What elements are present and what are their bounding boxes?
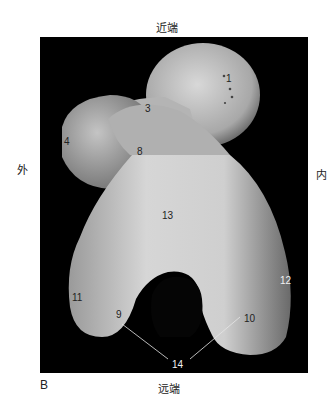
orientation-distal-label: 远端	[158, 380, 180, 396]
label-4: 4	[64, 136, 70, 147]
panel-letter: B	[40, 378, 48, 392]
label-13: 13	[162, 210, 173, 221]
bone-photograph: 1 3 4 8 13 12 11 9 10 14	[40, 37, 308, 373]
label-11: 11	[72, 292, 82, 303]
orientation-proximal-label: 近端	[156, 19, 178, 35]
label-8: 8	[137, 146, 143, 157]
label-12: 12	[280, 275, 291, 286]
orientation-medial-label: 内	[316, 166, 327, 182]
femur-distal-view-illustration	[40, 37, 308, 373]
orientation-lateral-label: 外	[17, 161, 28, 177]
label-9: 9	[116, 309, 122, 320]
label-14: 14	[172, 359, 183, 370]
label-3: 3	[145, 103, 151, 114]
label-1: 1	[226, 73, 232, 84]
label-10: 10	[244, 313, 255, 324]
